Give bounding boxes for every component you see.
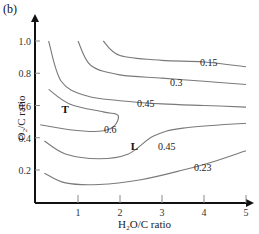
- x-tick-label: 4: [202, 207, 207, 218]
- contour-line: [103, 41, 246, 67]
- contour-labels: 0.150.30.450.60.450.23TL: [61, 57, 217, 173]
- y-tick-label: 0.2: [19, 165, 32, 176]
- contour-level-label: 0.45: [158, 141, 176, 152]
- point-annotation: L: [131, 140, 138, 152]
- contour-line: [78, 41, 246, 85]
- x-tick-label: 2: [118, 207, 123, 218]
- x-axis-label: H₂O/C ratio: [118, 218, 171, 230]
- contour-level-label: 0.15: [200, 57, 218, 68]
- y-tick-label: 1.0: [19, 36, 32, 47]
- x-tick-label: 3: [160, 207, 165, 218]
- y-axis-label: O₂/C ratio: [15, 83, 27, 153]
- contour-level-label: 0.6: [104, 124, 117, 135]
- contour-level-label: 0.3: [170, 77, 183, 88]
- contour-line: [44, 123, 246, 159]
- contour-level-label: 0.23: [194, 162, 212, 173]
- contour-level-label: 0.45: [137, 98, 155, 109]
- y-tick-label: 0.8: [19, 68, 32, 79]
- x-tick-label: 1: [76, 207, 81, 218]
- contour-chart: 123450.20.40.60.81.0 0.150.30.450.60.450…: [0, 0, 259, 234]
- point-annotation: T: [61, 103, 69, 115]
- x-tick-label: 5: [244, 207, 249, 218]
